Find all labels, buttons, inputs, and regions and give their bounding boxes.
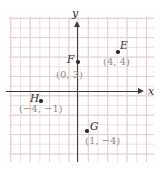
point-label-f: F [67, 54, 74, 65]
x-axis-label: x [148, 86, 154, 97]
point-coord-e: (4, 4) [103, 57, 130, 67]
y-axis-line [77, 27, 78, 162]
coordinate-plane: x y E (4, 4) F (0, 3) H (−4, −1) G (1, −… [0, 0, 163, 170]
point-marker-g [85, 129, 88, 132]
y-axis-arrow-icon [74, 21, 80, 27]
point-label-g: G [90, 121, 98, 132]
x-axis-line [6, 91, 139, 92]
point-marker-f [76, 60, 79, 63]
point-label-h: H [30, 93, 39, 104]
y-axis-label: y [72, 8, 78, 19]
point-coord-f: (0, 3) [56, 70, 83, 80]
x-axis-arrow-icon [138, 88, 144, 94]
point-coord-h: (−4, −1) [19, 104, 63, 114]
point-coord-g: (1, −4) [85, 136, 120, 146]
point-label-e: E [120, 40, 128, 51]
grid-major [9, 17, 154, 162]
